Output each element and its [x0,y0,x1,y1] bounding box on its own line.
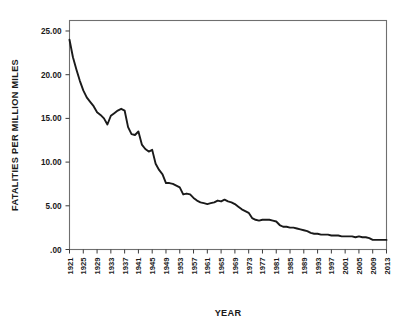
x-axis-ticks [70,250,387,254]
x-tick-label: 1921 [66,257,75,275]
y-axis-title: FATALITIES PER MILLION MILES [10,59,20,211]
y-tick-label: 20.00 [41,71,62,80]
plot-frame [70,21,387,250]
y-tick-label: 5.00 [46,202,62,211]
x-tick-label: 1981 [272,257,281,275]
x-tick-label: 1953 [176,258,185,275]
x-tick-label: 2005 [355,257,364,275]
y-tick-label: .00 [50,246,62,255]
y-axis-tick-labels: .005.0010.0015.0020.0025.00 [41,27,62,255]
y-tick-label: 10.00 [41,158,62,167]
x-axis-tick-labels: 1921192519291933193719411945194919531957… [66,257,392,275]
x-tick-label: 2009 [369,258,378,275]
x-tick-label: 1989 [300,258,309,275]
x-tick-label: 1929 [93,258,102,275]
x-tick-label: 2013 [383,258,392,275]
x-tick-label: 1977 [258,258,267,275]
x-tick-label: 1925 [79,257,88,275]
x-tick-label: 1933 [107,258,116,275]
x-tick-label: 1969 [231,258,240,275]
y-tick-label: 15.00 [41,114,62,123]
y-tick-label: 25.00 [41,27,62,36]
x-tick-label: 1961 [203,257,212,275]
line-chart: .005.0010.0015.0020.0025.00 192119251929… [0,0,407,327]
y-axis-ticks [66,31,70,250]
x-tick-label: 1965 [217,257,226,275]
x-tick-label: 1945 [148,257,157,275]
x-tick-label: 1937 [121,258,130,275]
x-tick-label: 2001 [341,257,350,275]
x-tick-label: 1957 [190,258,199,275]
chart-container: .005.0010.0015.0020.0025.00 192119251929… [0,0,407,327]
x-tick-label: 1985 [286,257,295,275]
x-axis-title: YEAR [215,308,242,318]
data-series-line [70,40,387,240]
x-tick-label: 1973 [245,258,254,275]
x-tick-label: 1997 [327,258,336,275]
x-tick-label: 1941 [134,257,143,275]
plot-area-border [70,21,387,250]
x-tick-label: 1993 [314,258,323,275]
x-tick-label: 1949 [162,258,171,275]
